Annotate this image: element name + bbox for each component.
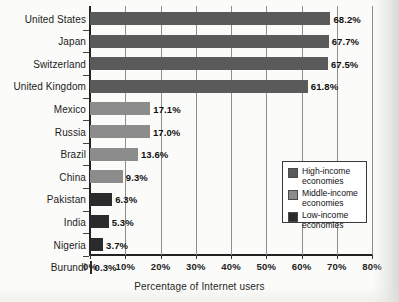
bar (90, 35, 329, 48)
legend-item-low-income: Low-income economies (288, 211, 362, 230)
category-label: Pakistan (47, 194, 86, 205)
bar-chart: 0%10%20%30%40%50%60%70%80% United States… (0, 0, 399, 302)
x-tick-80pct (372, 255, 373, 259)
x-tick-label: 10% (115, 261, 135, 272)
x-tick-10pct (125, 255, 126, 259)
category-axis-tick (83, 98, 89, 99)
category-label: United Kingdom (13, 81, 86, 92)
bar (90, 215, 109, 228)
bar-value-label: 67.7% (332, 36, 359, 47)
category-label: India (64, 217, 86, 228)
x-tick-50pct (266, 255, 267, 259)
x-tick-0pct (90, 255, 91, 259)
category-axis-tick (83, 165, 89, 166)
x-axis-title: Percentage of Internet users (0, 281, 399, 292)
bar-value-label: 17.1% (153, 104, 180, 115)
legend-label-middle-income-line1: Middle-income (302, 188, 358, 198)
bar-value-label: 5.3% (112, 217, 134, 228)
bar-value-label: 67.5% (331, 59, 358, 70)
legend-label-low-income: Low-income economies (302, 211, 348, 230)
bar (90, 102, 150, 115)
legend-swatch-low-income-icon (288, 212, 298, 222)
bar-value-label: 6.3% (115, 194, 137, 205)
bar (90, 12, 330, 25)
category-label: United States (25, 14, 86, 25)
legend-label-low-income-line2: economies (302, 220, 344, 230)
x-tick-label: 40% (221, 261, 241, 272)
x-tick-label: 50% (256, 261, 276, 272)
category-axis-tick (83, 52, 89, 53)
bar (90, 125, 150, 138)
x-tick-label: 70% (327, 261, 347, 272)
bar-value-label: 68.2% (333, 14, 360, 25)
category-axis-tick (83, 211, 89, 212)
legend-swatch-high-income-icon (288, 168, 298, 178)
bar (90, 238, 103, 251)
category-axis-tick (83, 143, 89, 144)
x-tick-label: 20% (151, 261, 171, 272)
legend-label-middle-income: Middle-income economies (302, 189, 358, 208)
bar-value-label: 13.6% (141, 149, 168, 160)
gridline-80pct (372, 6, 373, 255)
x-tick-20pct (161, 255, 162, 259)
legend-item-middle-income: Middle-income economies (288, 189, 362, 208)
bar (90, 170, 123, 183)
category-label: Brazil (60, 149, 86, 160)
x-tick-70pct (337, 255, 338, 259)
legend-item-high-income: High-income economies (288, 167, 362, 186)
bar (90, 193, 112, 206)
page-edge-shadow-right (373, 0, 399, 302)
category-label: Burundi (51, 262, 86, 273)
bar (90, 57, 328, 70)
bar-value-label: 61.8% (311, 81, 338, 92)
category-axis-tick (83, 75, 89, 76)
category-axis-tick (83, 188, 89, 189)
legend-label-high-income-line2: economies (302, 176, 344, 186)
x-tick-40pct (231, 255, 232, 259)
legend-label-high-income: High-income economies (302, 167, 350, 186)
category-label: Nigeria (54, 240, 86, 251)
legend-label-middle-income-line2: economies (302, 198, 344, 208)
bar-value-label: 3.7% (106, 240, 128, 251)
category-label: Mexico (54, 104, 86, 115)
x-tick-label: 30% (186, 261, 206, 272)
legend-label-high-income-line1: High-income (302, 166, 350, 176)
x-tick-label: 60% (292, 261, 312, 272)
legend-swatch-middle-income-icon (288, 190, 298, 200)
category-axis-tick (83, 120, 89, 121)
bar (90, 80, 308, 93)
x-tick-label: 80% (362, 261, 382, 272)
category-label: Switzerland (33, 59, 86, 70)
x-tick-30pct (196, 255, 197, 259)
bar (90, 148, 138, 161)
category-label: Russia (55, 127, 86, 138)
x-tick-60pct (302, 255, 303, 259)
category-label: China (59, 172, 86, 183)
category-axis-tick (83, 233, 89, 234)
category-axis-tick (83, 30, 89, 31)
bar-value-label: 17.0% (153, 127, 180, 138)
bar (90, 261, 92, 274)
category-label: Japan (58, 36, 86, 47)
legend-label-low-income-line1: Low-income (302, 210, 348, 220)
bar-value-label: 9.3% (126, 172, 148, 183)
chart-legend: High-income economies Middle-income econ… (282, 161, 367, 223)
category-axis-tick (83, 256, 89, 257)
bar-value-label: 0.3% (95, 262, 117, 273)
